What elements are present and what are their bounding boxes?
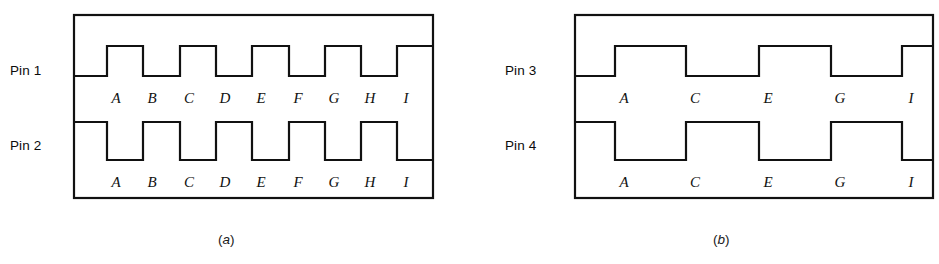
caption-paren-close: )	[230, 232, 235, 247]
waveform-pin-4	[575, 122, 933, 160]
caption-letter: a	[223, 232, 231, 247]
event-label: F	[292, 174, 303, 190]
event-label: E	[762, 90, 772, 106]
event-label: A	[110, 174, 121, 190]
event-label: D	[219, 90, 231, 106]
event-label: G	[329, 90, 340, 106]
panel-a-waveforms: ABCDEFGHIABCDEFGHI	[0, 0, 469, 215]
event-label: B	[147, 90, 156, 106]
event-label: G	[329, 174, 340, 190]
event-label: E	[255, 90, 265, 106]
event-label: I	[908, 90, 915, 106]
event-label: H	[364, 90, 377, 106]
event-label: G	[835, 90, 846, 106]
event-label: C	[690, 174, 701, 190]
event-label: A	[618, 174, 629, 190]
event-label: C	[184, 90, 195, 106]
event-label: E	[762, 174, 772, 190]
event-label: C	[184, 174, 195, 190]
caption-letter: b	[718, 232, 726, 247]
event-label: I	[403, 90, 410, 106]
panel-a: Pin 1 Pin 2 ABCDEFGHIABCDEFGHI (a)	[0, 0, 469, 264]
event-label: I	[403, 174, 410, 190]
event-label: I	[908, 174, 915, 190]
caption-paren-close: )	[725, 232, 730, 247]
event-label: C	[690, 90, 701, 106]
panel-b: Pin 3 Pin 4 ACEGIACEGI (b)	[470, 0, 939, 264]
event-label: F	[292, 90, 303, 106]
event-label: G	[835, 174, 846, 190]
panel-border	[74, 15, 433, 198]
waveform-pin-3	[575, 46, 933, 76]
panel-border	[575, 15, 933, 198]
event-label: B	[147, 174, 156, 190]
waveform-pin-2	[74, 122, 433, 160]
panel-a-caption: (a)	[218, 232, 235, 247]
event-label: D	[219, 174, 231, 190]
panel-b-caption: (b)	[713, 232, 730, 247]
event-label: A	[110, 90, 121, 106]
event-label: A	[618, 90, 629, 106]
waveform-pin-1	[74, 46, 433, 76]
panel-b-waveforms: ACEGIACEGI	[470, 0, 939, 215]
event-label: H	[364, 174, 377, 190]
timing-diagram-figure: Pin 1 Pin 2 ABCDEFGHIABCDEFGHI (a) Pin 3…	[0, 0, 939, 264]
event-label: E	[255, 174, 265, 190]
